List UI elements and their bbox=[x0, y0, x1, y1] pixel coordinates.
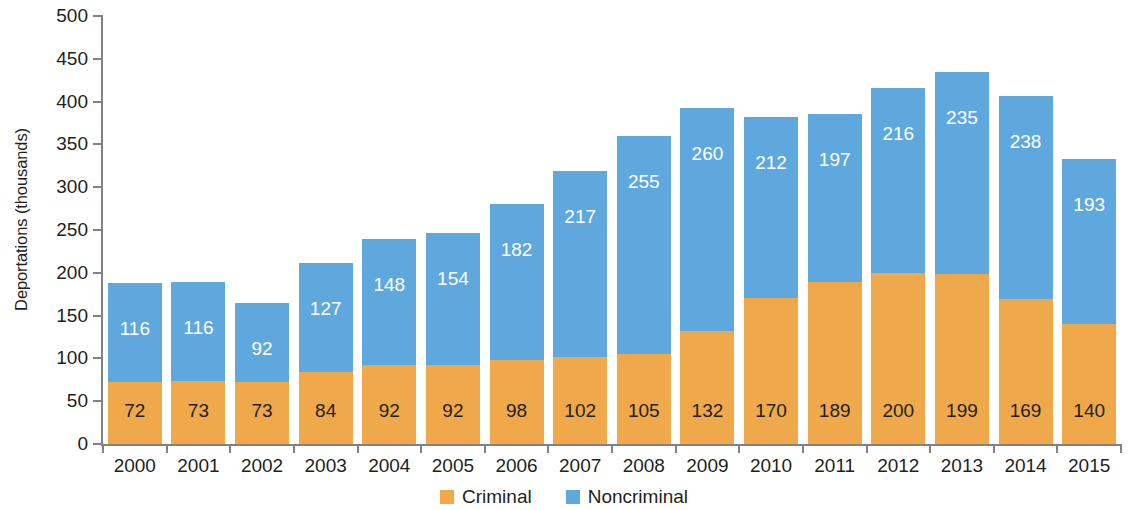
bar-group[interactable]: 12784 bbox=[299, 263, 353, 444]
y-axis-tick bbox=[93, 101, 102, 103]
bar-value-label-noncriminal: 116 bbox=[108, 319, 162, 338]
x-axis-tick-label: 2014 bbox=[994, 455, 1058, 477]
legend-item[interactable]: Criminal bbox=[440, 486, 532, 508]
bar-group[interactable]: 14892 bbox=[362, 239, 416, 444]
bar-value-label-criminal: 92 bbox=[426, 401, 480, 420]
bar-segment-noncriminal[interactable] bbox=[808, 114, 862, 283]
x-axis-tick-label: 2003 bbox=[294, 455, 358, 477]
legend-item[interactable]: Noncriminal bbox=[566, 486, 688, 508]
x-axis-tick-label: 2002 bbox=[230, 455, 294, 477]
bar-value-label-noncriminal: 235 bbox=[935, 108, 989, 127]
bar-value-label-noncriminal: 212 bbox=[744, 153, 798, 172]
bar-value-label-noncriminal: 193 bbox=[1062, 195, 1116, 214]
y-axis-tick-label: 350 bbox=[36, 133, 88, 155]
bar-segment-criminal[interactable] bbox=[999, 299, 1053, 444]
bar-segment-noncriminal[interactable] bbox=[1062, 159, 1116, 324]
y-axis-tick bbox=[93, 186, 102, 188]
y-axis-tick-label: 150 bbox=[36, 305, 88, 327]
bar-group[interactable]: 11672 bbox=[108, 283, 162, 444]
x-axis-tick bbox=[166, 444, 168, 453]
bar-value-label-criminal: 199 bbox=[935, 401, 989, 420]
x-axis-tick bbox=[102, 444, 104, 453]
bar-segment-noncriminal[interactable] bbox=[871, 88, 925, 273]
bar-value-label-criminal: 98 bbox=[490, 401, 544, 420]
bar-segment-criminal[interactable] bbox=[1062, 324, 1116, 444]
bar-segment-noncriminal[interactable] bbox=[426, 233, 480, 365]
bar-segment-noncriminal[interactable] bbox=[744, 117, 798, 298]
bar-value-label-noncriminal: 116 bbox=[171, 318, 225, 337]
y-axis-tick bbox=[93, 357, 102, 359]
bar-group[interactable]: 18298 bbox=[490, 204, 544, 444]
y-axis-tick-label: 50 bbox=[36, 390, 88, 412]
y-axis-tick-label: 500 bbox=[36, 5, 88, 27]
x-axis-tick bbox=[802, 444, 804, 453]
bar-value-label-noncriminal: 255 bbox=[617, 172, 671, 191]
y-axis-tick bbox=[93, 272, 102, 274]
bar-group[interactable]: 216200 bbox=[871, 88, 925, 444]
bar-value-label-criminal: 200 bbox=[871, 401, 925, 420]
bar-group[interactable]: 212170 bbox=[744, 117, 798, 444]
bar-value-label-noncriminal: 182 bbox=[490, 240, 544, 259]
bar-group[interactable]: 217102 bbox=[553, 171, 607, 444]
bar-segment-noncriminal[interactable] bbox=[935, 72, 989, 273]
bar-group[interactable]: 11673 bbox=[171, 282, 225, 444]
bar-group[interactable]: 255105 bbox=[617, 136, 671, 444]
bar-value-label-criminal: 189 bbox=[808, 401, 862, 420]
stacked-bar-chart: Deportations (thousands) 050100150200250… bbox=[0, 0, 1128, 510]
bar-group[interactable]: 15492 bbox=[426, 233, 480, 444]
bar-segment-noncriminal[interactable] bbox=[680, 108, 734, 331]
x-axis-tick-label: 2010 bbox=[739, 455, 803, 477]
x-axis-tick bbox=[357, 444, 359, 453]
y-axis-tick-label: 400 bbox=[36, 91, 88, 113]
y-axis-tick bbox=[93, 15, 102, 17]
x-axis-tick bbox=[229, 444, 231, 453]
bar-value-label-criminal: 73 bbox=[171, 401, 225, 420]
legend-item-label: Noncriminal bbox=[588, 486, 688, 508]
y-axis-tick-label: 100 bbox=[36, 347, 88, 369]
bar-value-label-criminal: 140 bbox=[1062, 401, 1116, 420]
bar-group[interactable]: 260132 bbox=[680, 108, 734, 444]
x-axis-tick-label: 2015 bbox=[1057, 455, 1121, 477]
legend-swatch-noncriminal bbox=[566, 490, 580, 504]
bar-value-label-noncriminal: 217 bbox=[553, 207, 607, 226]
y-axis-tick-label: 0 bbox=[36, 433, 88, 455]
bar-segment-criminal[interactable] bbox=[744, 298, 798, 444]
bar-segment-noncriminal[interactable] bbox=[553, 171, 607, 357]
bar-segment-noncriminal[interactable] bbox=[617, 136, 671, 354]
x-axis-tick bbox=[675, 444, 677, 453]
bar-segment-noncriminal[interactable] bbox=[490, 204, 544, 360]
x-axis-tick bbox=[866, 444, 868, 453]
x-axis-tick-label: 2012 bbox=[867, 455, 931, 477]
y-axis-tick-label: 250 bbox=[36, 219, 88, 241]
bar-value-label-noncriminal: 127 bbox=[299, 299, 353, 318]
bar-value-label-criminal: 73 bbox=[235, 401, 289, 420]
x-axis-tick-label: 2009 bbox=[676, 455, 740, 477]
x-axis-tick bbox=[484, 444, 486, 453]
bar-value-label-noncriminal: 216 bbox=[871, 124, 925, 143]
x-axis-tick bbox=[993, 444, 995, 453]
bar-value-label-noncriminal: 260 bbox=[680, 144, 734, 163]
bar-segment-noncriminal[interactable] bbox=[362, 239, 416, 366]
y-axis-tick bbox=[93, 229, 102, 231]
bar-value-label-criminal: 72 bbox=[108, 401, 162, 420]
bar-group[interactable]: 197189 bbox=[808, 114, 862, 444]
bar-group[interactable]: 238169 bbox=[999, 96, 1053, 444]
bar-segment-criminal[interactable] bbox=[680, 331, 734, 444]
bar-value-label-noncriminal: 238 bbox=[999, 132, 1053, 151]
bar-value-label-criminal: 84 bbox=[299, 401, 353, 420]
y-axis-tick bbox=[93, 143, 102, 145]
bar-value-label-criminal: 105 bbox=[617, 401, 671, 420]
bar-segment-noncriminal[interactable] bbox=[999, 96, 1053, 300]
x-axis-tick-label: 2001 bbox=[167, 455, 231, 477]
bar-value-label-criminal: 170 bbox=[744, 401, 798, 420]
bar-value-label-noncriminal: 148 bbox=[362, 275, 416, 294]
x-axis-tick bbox=[293, 444, 295, 453]
x-axis-tick-label: 2004 bbox=[358, 455, 422, 477]
x-axis-tick bbox=[547, 444, 549, 453]
x-axis-tick-label: 2011 bbox=[803, 455, 867, 477]
bar-value-label-criminal: 132 bbox=[680, 401, 734, 420]
bar-group[interactable]: 235199 bbox=[935, 72, 989, 444]
bar-group[interactable]: 9273 bbox=[235, 303, 289, 444]
bar-group[interactable]: 193140 bbox=[1062, 159, 1116, 444]
y-axis-tick-label: 200 bbox=[36, 262, 88, 284]
